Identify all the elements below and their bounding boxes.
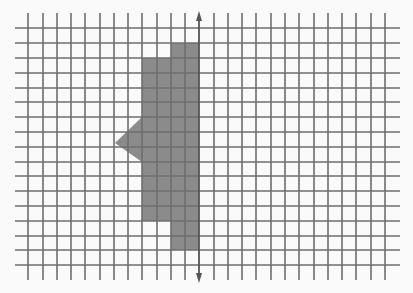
grid-canvas <box>0 0 413 293</box>
grid-diagram <box>0 0 413 293</box>
